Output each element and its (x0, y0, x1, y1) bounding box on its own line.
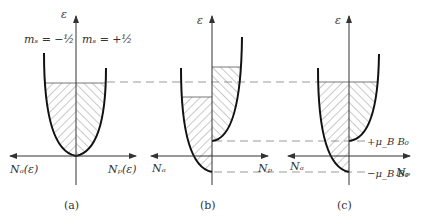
panel-c: ε Nₐ Nₚ +μ_B B₀ −μ_B B₀ (c) (288, 14, 411, 212)
caption-c: (c) (337, 199, 352, 212)
epsilon-label: ε (197, 14, 203, 27)
np-label: Nₚ (257, 162, 273, 175)
panel-b: ε Nₐ Nₚ (b) (151, 14, 273, 212)
panel-a: ε mₛ = −½ mₛ = +½ Nₐ(ε) Nₚ(ε) (a) (9, 8, 137, 212)
na-label: Nₐ(ε) (9, 163, 38, 176)
caption-b: (b) (200, 199, 216, 212)
epsilon-label: ε (335, 14, 341, 27)
caption-a: (a) (64, 199, 79, 212)
epsilon-label: ε (61, 8, 67, 21)
na-label: Nₐ (151, 162, 166, 175)
spin-plus-label: mₛ = +½ (82, 33, 132, 46)
np-label: Nₚ(ε) (107, 163, 137, 176)
na-label: Nₐ (289, 160, 304, 173)
spin-minus-label: mₛ = −½ (24, 33, 74, 46)
density-of-states-diagram: ε mₛ = −½ mₛ = +½ Nₐ(ε) Nₚ(ε) (a) ε Nₐ N… (0, 0, 426, 222)
minus-mub-label: −μ_B B₀ (367, 168, 409, 180)
plus-mub-label: +μ_B B₀ (367, 136, 409, 148)
